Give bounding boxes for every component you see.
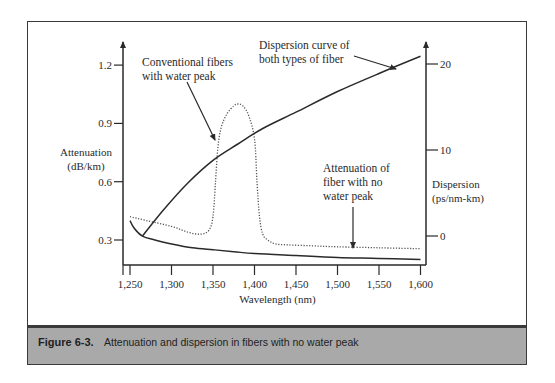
- annotation-conventional: with water peak: [142, 70, 216, 83]
- annotation-arrow-dispersion: [354, 56, 396, 69]
- y2-tick-label: 0: [440, 230, 446, 242]
- y-axis-title: (dB/km): [67, 160, 105, 173]
- y2-tick-label: 20: [440, 58, 452, 70]
- caption-figure-number: Figure 6-3.: [38, 336, 94, 348]
- annotation-conventional: Conventional fibers: [142, 56, 234, 68]
- y-tick-label: 0.9: [98, 117, 112, 129]
- annotation-dispersion: both types of fiber: [259, 53, 344, 66]
- y-tick-label: 1.2: [98, 59, 112, 71]
- annotation-dispersion: Dispersion curve of: [259, 39, 350, 52]
- y-tick-label: 0.3: [98, 234, 112, 246]
- annotation-no-water-peak: Attenuation of: [323, 162, 390, 174]
- figure-caption: Figure 6-3. Attenuation and dispersion i…: [27, 325, 527, 365]
- y2-axis-title: Dispersion: [432, 178, 480, 190]
- y2-axis-title: (ps/nm-km): [432, 192, 484, 205]
- x-tick-label: 1,400: [242, 278, 267, 290]
- x-tick-label: 1,300: [159, 278, 184, 290]
- y-axis-title: Attenuation: [60, 146, 112, 158]
- y2-tick-label: 10: [440, 144, 452, 156]
- x-tick-label: 1,450: [284, 278, 309, 290]
- annotation-no-water-peak: water peak: [323, 190, 373, 203]
- x-tick-label: 1,250: [118, 278, 143, 290]
- y-tick-label: 0.6: [98, 176, 112, 188]
- annotation-no-water-peak: fiber with no: [323, 176, 383, 188]
- annotation-arrow-conventional: [187, 82, 215, 140]
- caption-text: Attenuation and dispersion in fibers wit…: [104, 336, 359, 348]
- series-dispersion: [142, 56, 420, 236]
- x-axis-title: Wavelength (nm): [239, 293, 316, 306]
- x-tick-label: 1,500: [325, 278, 350, 290]
- x-tick-label: 1,550: [367, 278, 392, 290]
- x-tick-label: 1,350: [201, 278, 226, 290]
- x-tick-label: 1,600: [408, 278, 433, 290]
- series-attenuation-no-water-peak: [130, 221, 421, 260]
